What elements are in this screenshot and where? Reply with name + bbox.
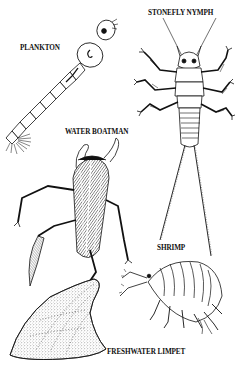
illustration-plate: PLANKTON STONEFLY NYMPH WATER BOATMAN SH… [0, 0, 236, 370]
freshwater-limpet-drawing [10, 279, 106, 360]
stonefly-nymph-drawing [134, 18, 235, 256]
label-shrimp: SHRIMP [157, 245, 185, 252]
label-plankton: PLANKTON [20, 45, 60, 52]
freshwater-shrimp-drawing [119, 261, 222, 334]
label-stonefly-nymph: STONEFLY NYMPH [148, 10, 213, 17]
specimen-drawings [0, 0, 236, 370]
label-freshwater-limpet: FRESHWATER LIMPET [107, 349, 185, 356]
label-water-boatman: WATER BOATMAN [65, 129, 128, 136]
